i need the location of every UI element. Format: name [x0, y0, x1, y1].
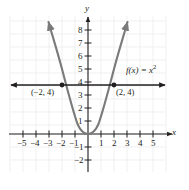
y-tick-label-4: 4: [78, 78, 83, 87]
point-marker-left: [60, 83, 65, 88]
function-equation-exponent: 2: [153, 63, 156, 70]
x-axis-label: x: [172, 128, 176, 137]
x-tick-label-2: 2: [112, 139, 117, 148]
x-tick-label-4: 4: [138, 139, 143, 148]
y-tick-label-1: 1: [78, 117, 83, 126]
y-tick-label-3: 3: [78, 91, 83, 100]
x-tick-label-neg3: −3: [43, 139, 53, 148]
x-tick-label-3: 3: [125, 139, 130, 148]
y-tick-label-8: 8: [78, 26, 83, 35]
coordinate-plane: [0, 0, 189, 190]
y-tick-label-7: 7: [78, 39, 83, 48]
y-tick-label-5: 5: [78, 65, 83, 74]
x-tick-label-neg2: −2: [56, 139, 66, 148]
y-tick-label-2: 2: [78, 104, 83, 113]
y-tick-label-6: 6: [78, 52, 83, 61]
point-label-right: (2, 4): [116, 88, 134, 97]
x-tick-label-neg4: −4: [30, 139, 40, 148]
graph-figure: −5 −4 −3 −2 −1 1 2 3 4 5 8 7 6 5 4 3 2 1…: [0, 0, 189, 190]
point-label-left: (−2, 4): [31, 88, 54, 97]
x-tick-label-5: 5: [151, 139, 156, 148]
function-equation-text: f(x) = x: [126, 65, 153, 75]
x-tick-label-neg5: −5: [17, 139, 27, 148]
y-axis: [85, 17, 92, 172]
y-tick-label-neg1: −1: [74, 143, 84, 152]
x-tick-label-1: 1: [99, 139, 104, 148]
y-axis-label: y: [85, 4, 89, 13]
function-equation-label: f(x) = x2: [126, 64, 156, 75]
y-tick-label-neg2: −2: [74, 156, 84, 165]
